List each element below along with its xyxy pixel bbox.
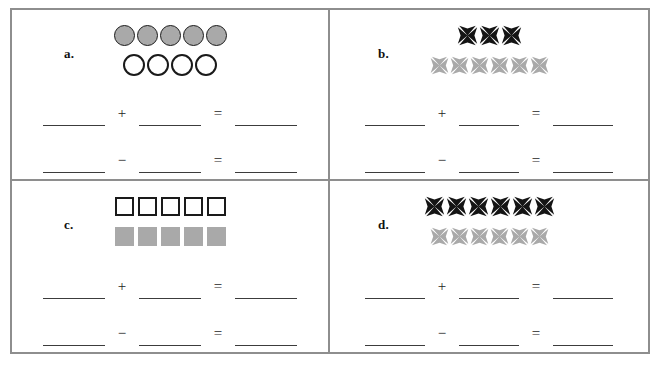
shape-group-d (330, 191, 648, 253)
black-pinwheel-icon (511, 195, 534, 218)
shape-group-a (12, 20, 328, 82)
blank-difference[interactable] (235, 344, 297, 346)
black-pinwheel-icon (478, 24, 501, 47)
shape-row-bottom-c (12, 221, 328, 251)
white-circle-icon (147, 54, 169, 76)
white-circle-icon (171, 54, 193, 76)
blank-addend-2[interactable] (459, 297, 519, 299)
equation-row-subtraction-a: − = (12, 126, 328, 173)
problem-panel-d: d. + = − = (330, 181, 648, 352)
blank-subtrahend[interactable] (139, 344, 201, 346)
black-pinwheel-icon (467, 195, 490, 218)
blank-addend-2[interactable] (459, 124, 519, 126)
operator-equals: = (519, 153, 553, 173)
black-pinwheel-icon (423, 195, 446, 218)
operator-minus: − (425, 326, 459, 346)
blank-sum[interactable] (553, 124, 613, 126)
gray-circle-icon (183, 25, 204, 46)
operator-equals: = (201, 279, 235, 299)
gray-circle-icon (114, 25, 135, 46)
gray-pinwheel-icon (489, 226, 510, 247)
black-pinwheel-icon (500, 24, 523, 47)
white-circle-icon (195, 54, 217, 76)
blank-addend-2[interactable] (139, 297, 201, 299)
white-square-icon (207, 197, 226, 216)
gray-pinwheel-icon (449, 226, 470, 247)
problem-panel-a: a. + = − = (12, 10, 330, 181)
blank-subtrahend[interactable] (139, 171, 201, 173)
shape-row-bottom-b (330, 50, 648, 80)
gray-pinwheel-icon (529, 226, 550, 247)
blank-minuend[interactable] (365, 171, 425, 173)
blank-addend-1[interactable] (365, 124, 425, 126)
blank-addend-1[interactable] (43, 124, 105, 126)
blank-sum[interactable] (553, 297, 613, 299)
problem-panel-b: b. + = − = (330, 10, 648, 181)
gray-pinwheel-icon (489, 55, 510, 76)
operator-plus: + (105, 106, 139, 126)
black-pinwheel-icon (456, 24, 479, 47)
blank-subtrahend[interactable] (459, 344, 519, 346)
white-square-icon (115, 197, 134, 216)
white-square-icon (138, 197, 157, 216)
equation-row-addition-d: + = (330, 252, 648, 299)
equation-group-c: + = − = (12, 252, 328, 346)
operator-equals: = (201, 106, 235, 126)
operator-minus: − (105, 153, 139, 173)
operator-equals: = (519, 326, 553, 346)
blank-difference[interactable] (553, 171, 613, 173)
problem-panel-c: c. + = − = (12, 181, 330, 352)
equation-group-b: + = − = (330, 79, 648, 173)
gray-circle-icon (206, 25, 227, 46)
blank-subtrahend[interactable] (459, 171, 519, 173)
operator-equals: = (201, 326, 235, 346)
operator-equals: = (519, 279, 553, 299)
shape-row-top-b (330, 20, 648, 50)
gray-square-icon (138, 227, 157, 246)
blank-addend-2[interactable] (139, 124, 201, 126)
shape-row-bottom-d (330, 221, 648, 251)
blank-sum[interactable] (235, 124, 297, 126)
operator-plus: + (105, 279, 139, 299)
gray-circle-icon (160, 25, 181, 46)
white-square-icon (184, 197, 203, 216)
shape-row-top-a (12, 20, 328, 50)
equation-row-subtraction-b: − = (330, 126, 648, 173)
equation-row-subtraction-c: − = (12, 299, 328, 346)
gray-pinwheel-icon (449, 55, 470, 76)
operator-minus: − (105, 326, 139, 346)
blank-minuend[interactable] (43, 171, 105, 173)
equation-row-addition-b: + = (330, 79, 648, 126)
equation-row-addition-c: + = (12, 252, 328, 299)
worksheet-grid: a. + = − = b. (10, 8, 650, 354)
gray-square-icon (115, 227, 134, 246)
white-square-icon (161, 197, 180, 216)
blank-addend-1[interactable] (365, 297, 425, 299)
equation-group-a: + = − = (12, 79, 328, 173)
operator-equals: = (201, 153, 235, 173)
blank-difference[interactable] (553, 344, 613, 346)
blank-minuend[interactable] (365, 344, 425, 346)
operator-plus: + (425, 279, 459, 299)
equation-row-addition-a: + = (12, 79, 328, 126)
blank-sum[interactable] (235, 297, 297, 299)
shape-row-top-c (12, 191, 328, 221)
gray-pinwheel-icon (529, 55, 550, 76)
gray-pinwheel-icon (469, 226, 490, 247)
black-pinwheel-icon (445, 195, 468, 218)
gray-pinwheel-icon (509, 55, 530, 76)
gray-pinwheel-icon (429, 55, 450, 76)
gray-square-icon (161, 227, 180, 246)
white-circle-icon (123, 54, 145, 76)
equation-group-d: + = − = (330, 252, 648, 346)
shape-group-b (330, 20, 648, 82)
black-pinwheel-icon (489, 195, 512, 218)
shape-row-top-d (330, 191, 648, 221)
equation-row-subtraction-d: − = (330, 299, 648, 346)
operator-plus: + (425, 106, 459, 126)
blank-difference[interactable] (235, 171, 297, 173)
gray-pinwheel-icon (429, 226, 450, 247)
blank-addend-1[interactable] (43, 297, 105, 299)
black-pinwheel-icon (533, 195, 556, 218)
blank-minuend[interactable] (43, 344, 105, 346)
